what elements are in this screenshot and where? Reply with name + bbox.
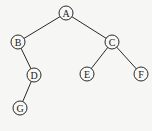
node-f-label: F [138, 69, 144, 80]
tree-svg: A B C D E F G [0, 0, 152, 131]
tree-diagram: A B C D E F G [0, 0, 152, 131]
node-f: F [134, 67, 148, 81]
node-b-label: B [15, 37, 22, 48]
node-b: B [11, 35, 25, 49]
edge-a-b [18, 13, 66, 42]
node-d-label: D [30, 70, 37, 81]
node-d: D [27, 68, 41, 82]
node-g: G [13, 101, 27, 115]
edges [18, 13, 141, 108]
node-g-label: G [16, 103, 23, 114]
node-a: A [59, 6, 73, 20]
node-c-label: C [109, 37, 116, 48]
edge-a-c [66, 13, 112, 42]
node-e: E [80, 67, 94, 81]
node-a-label: A [62, 8, 70, 19]
node-e-label: E [84, 69, 90, 80]
node-c: C [105, 35, 119, 49]
